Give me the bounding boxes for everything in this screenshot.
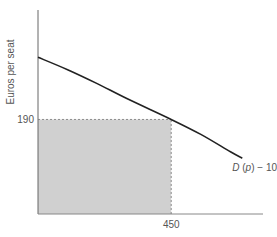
- chart: Euros per seat 190 450 D (p) − 100: [0, 0, 277, 237]
- curve-label: D (p) − 100: [232, 162, 277, 173]
- y-axis-label: Euros per seat: [5, 39, 16, 104]
- shaded-area: [38, 119, 171, 214]
- curve-label-part: D: [232, 162, 239, 173]
- curve-label-part: ) − 100: [251, 162, 277, 173]
- x-tick-label: 450: [163, 219, 180, 230]
- y-tick-label: 190: [17, 114, 34, 125]
